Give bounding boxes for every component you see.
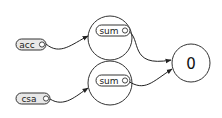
output-port-icon[interactable] bbox=[122, 28, 127, 33]
edge-sum-bottom-to-zero bbox=[128, 69, 172, 86]
operator-circle-sum-top[interactable] bbox=[88, 16, 132, 60]
output-port-icon[interactable] bbox=[122, 78, 127, 83]
output-node-zero[interactable]: 0 bbox=[172, 44, 210, 82]
input-node-acc[interactable]: acc bbox=[16, 39, 46, 50]
input-node-csa[interactable]: csa bbox=[16, 93, 50, 104]
operator-node-sum-bottom[interactable]: sum bbox=[96, 75, 130, 86]
input-label-csa: csa bbox=[21, 94, 36, 104]
output-port-icon[interactable] bbox=[43, 96, 48, 101]
edge-sum-top-to-zero bbox=[128, 31, 171, 61]
operator-node-sum-top[interactable]: sum bbox=[96, 25, 130, 36]
output-port-icon[interactable] bbox=[39, 42, 44, 47]
input-label-acc: acc bbox=[19, 40, 34, 50]
edge-csa-to-sum bbox=[50, 88, 88, 102]
dataflow-diagram: 0 acc csa sum sum bbox=[0, 0, 222, 118]
output-label: 0 bbox=[186, 55, 196, 73]
operator-label-sum: sum bbox=[99, 26, 118, 36]
edge-acc-to-sum bbox=[46, 36, 88, 49]
operator-label-sum: sum bbox=[99, 76, 118, 86]
